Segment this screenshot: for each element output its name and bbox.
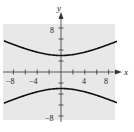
y-tick-label-8: 8 <box>50 26 54 35</box>
y-tick-label-neg8: −8 <box>45 114 54 123</box>
y-axis-arrow-icon <box>59 12 64 19</box>
x-tick-label-8: 8 <box>104 77 108 86</box>
x-tick-label-neg8: −8 <box>6 77 15 86</box>
x-tick-label-neg4: −4 <box>29 77 38 86</box>
x-tick-label-4: 4 <box>82 77 86 86</box>
x-axis-label: x <box>123 67 128 77</box>
x-axis-arrow-icon <box>115 70 122 75</box>
y-axis-label: y <box>56 3 61 13</box>
hyperbola-chart: x y −8 −4 4 8 8 −8 <box>0 0 134 132</box>
